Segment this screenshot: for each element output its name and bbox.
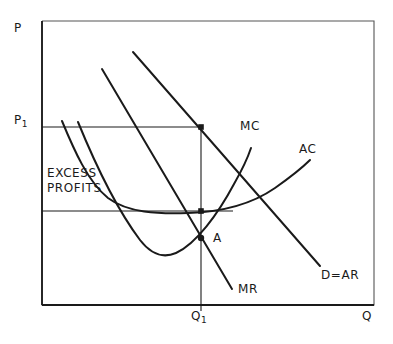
marginal-revenue-label: MR <box>238 283 258 296</box>
point-a-label: A <box>213 232 222 245</box>
y-axis-label: P <box>14 22 22 35</box>
price-tick-label: P1 <box>14 114 28 128</box>
plot-frame <box>42 21 374 305</box>
demand-label: D=AR <box>321 269 359 282</box>
x-axis-label: Q <box>362 310 372 323</box>
price-point-marker <box>198 124 204 130</box>
quantity-tick-letter: Q <box>191 309 201 323</box>
excess-profits-annotation-line1: EXCESS <box>47 166 97 181</box>
quantity-tick-label: Q1 <box>191 310 207 324</box>
cost-point-marker <box>198 208 204 214</box>
marginal-cost-curve <box>78 122 251 255</box>
average-cost-curve <box>62 121 310 213</box>
price-tick-subscript: 1 <box>22 119 28 129</box>
economics-diagram: P Q P1 Q1 EXCESS PROFITS MC AC MR D=AR A <box>0 0 393 344</box>
price-tick-letter: P <box>14 113 22 127</box>
demand-average-revenue-line <box>133 52 320 266</box>
marginal-cost-label: MC <box>240 120 260 133</box>
point-a-marker <box>198 235 204 241</box>
excess-profits-annotation-line2: PROFITS <box>47 181 102 196</box>
average-cost-label: AC <box>299 143 317 156</box>
quantity-tick-subscript: 1 <box>201 315 207 325</box>
